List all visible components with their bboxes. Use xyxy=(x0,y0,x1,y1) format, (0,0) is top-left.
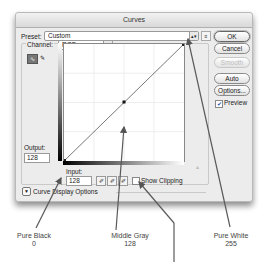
callout-arrows xyxy=(0,0,259,262)
middle-gray-label: Middle Gray xyxy=(100,232,160,240)
pure-black-callout: Pure Black 0 xyxy=(9,232,59,248)
pure-white-callout: Pure White 255 xyxy=(206,232,256,248)
pure-white-label: Pure White xyxy=(206,232,256,240)
pure-black-value: 0 xyxy=(9,240,59,248)
middle-gray-value: 128 xyxy=(100,240,160,248)
middle-gray-arrow xyxy=(116,127,124,230)
pure-white-arrow xyxy=(188,39,230,227)
pure-white-value: 255 xyxy=(206,240,256,248)
pure-black-label: Pure Black xyxy=(9,232,59,240)
pure-black-arrow xyxy=(36,178,61,228)
middle-gray-callout: Middle Gray 128 xyxy=(100,232,160,248)
show-clipping-arrow xyxy=(139,182,174,223)
